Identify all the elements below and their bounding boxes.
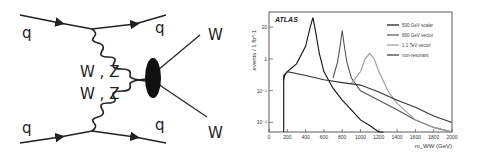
x-tick-label: 800 <box>338 134 347 140</box>
vertex-blob <box>145 58 161 98</box>
legend-entry: 500 GeV scalar <box>402 23 434 28</box>
y-tick-label: 1 <box>264 56 267 62</box>
label-q: q <box>155 19 165 37</box>
x-tick-label: 0 <box>268 134 271 140</box>
label-q: q <box>22 119 32 137</box>
label-boson: W , Z <box>80 63 119 81</box>
legend: 500 GeV scalar800 GeV vector1.1 TeV vect… <box>387 23 434 58</box>
x-tick-label: 2000 <box>446 134 457 140</box>
x-tick-label: 400 <box>301 134 310 140</box>
x-tick-label: 200 <box>283 134 292 140</box>
feynman-diagram: q q q q W , Z W , Z W W <box>0 0 239 160</box>
x-tick-label: 1600 <box>410 134 421 140</box>
legend-entry: 1.1 TeV vector <box>402 43 431 48</box>
series-line <box>351 53 452 132</box>
label-w: W <box>208 26 223 44</box>
label-w: W <box>208 124 223 142</box>
x-tick-label: 600 <box>320 134 329 140</box>
series-line <box>284 72 452 132</box>
x-axis-label: m_WW (GeV) <box>415 143 452 149</box>
x-tick-label: 1400 <box>392 134 403 140</box>
label-boson: W , Z <box>80 85 119 103</box>
x-tick-label: 1200 <box>373 134 384 140</box>
y-tick-label: 10 <box>261 24 267 30</box>
atlas-label: ATLAS <box>274 16 298 23</box>
y-tick-label: 10⁻² <box>257 119 268 125</box>
y-tick-label: 10⁻¹ <box>257 88 268 94</box>
label-q: q <box>155 116 165 134</box>
label-q: q <box>22 24 32 42</box>
legend-entry: 800 GeV vector <box>402 33 434 38</box>
mww-chart: 020040060080010001200140016001800200010⁻… <box>239 0 478 160</box>
y-axis-label: events / 1 fb^-1 <box>251 29 257 71</box>
x-tick-label: 1000 <box>355 134 366 140</box>
x-tick-label: 1800 <box>428 134 439 140</box>
legend-entry: non-resonant <box>402 53 429 58</box>
